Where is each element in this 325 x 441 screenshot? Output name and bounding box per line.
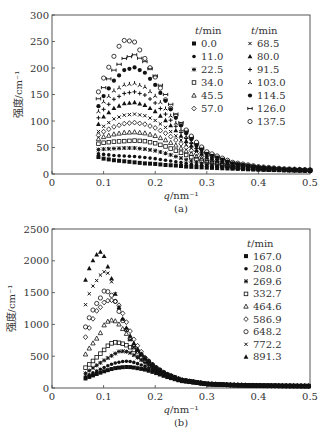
data-point-45.5: [107, 133, 111, 137]
data-point-167.0: [102, 369, 106, 373]
chart-panel-b: 00.10.20.30.40.505001000150020002500q/nm…: [0, 220, 325, 441]
data-point-45.5: [132, 130, 136, 134]
data-point-11.0: [179, 161, 183, 165]
data-point-648.2: [117, 309, 121, 313]
data-point-91.5: [153, 101, 157, 105]
legend-label: 332.7: [253, 288, 282, 299]
data-point-22.5: [96, 148, 100, 152]
data-point-45.5: [138, 130, 142, 134]
data-point-80.0: [158, 113, 163, 117]
data-point-167.0: [106, 368, 110, 372]
data-point-68.5: [102, 125, 105, 128]
data-point-891.3: [98, 249, 103, 253]
data-point-586.9: [83, 335, 87, 340]
data-point-22.5: [112, 147, 116, 151]
data-point-91.5: [158, 107, 162, 111]
data-point-45.5: [117, 131, 121, 135]
data-point-57.0: [132, 120, 136, 125]
data-point-772.2: [106, 272, 109, 275]
data-point-126.0: [117, 63, 121, 66]
data-point-208.0: [84, 375, 88, 379]
legend-item: 167.0: [244, 251, 282, 262]
data-point-114.5: [117, 73, 121, 77]
data-point-103.0: [143, 85, 147, 89]
data-point-91.5: [169, 118, 173, 122]
y-tick-label: 500: [30, 351, 49, 362]
data-point-137.5: [143, 56, 147, 60]
data-point-34.0: [174, 149, 178, 153]
data-point-464.6: [83, 352, 87, 356]
data-point-34.0: [148, 140, 152, 144]
legend-item: 208.0: [244, 263, 281, 274]
data-point-126.0: [107, 77, 111, 80]
data-point-114.5: [107, 86, 111, 90]
legend-label: 0.0: [201, 38, 217, 49]
data-point-57.0: [101, 129, 105, 134]
data-point-80.0: [117, 103, 122, 107]
data-point-57.0: [127, 121, 131, 126]
legend-item: 57.0: [192, 103, 223, 114]
data-point-464.6: [94, 336, 98, 340]
data-point-137.5: [102, 76, 106, 80]
legend-title: t/min: [195, 25, 222, 36]
data-point-11.0: [107, 153, 111, 157]
data-point-891.3: [113, 291, 118, 295]
data-point-0.0: [122, 159, 126, 163]
data-point-103.0: [102, 100, 106, 104]
data-point-208.0: [132, 361, 136, 365]
data-point-68.5: [159, 122, 162, 125]
legend-label: 80.0: [257, 51, 279, 62]
data-point-103.0: [107, 94, 111, 98]
data-point-57.0: [117, 123, 121, 128]
data-point-legend-91.5: [248, 68, 252, 72]
data-point-34.0: [143, 139, 147, 143]
data-point-68.5: [128, 113, 131, 116]
data-point-103.0: [138, 83, 142, 87]
x-tick-label: 0.3: [199, 391, 215, 402]
data-point-114.5: [96, 104, 100, 108]
data-point-208.0: [102, 366, 106, 370]
data-point-137.5: [127, 39, 131, 43]
data-point-208.0: [106, 364, 110, 368]
data-point-legend-80.0: [248, 54, 253, 58]
data-point-137.5: [138, 48, 142, 52]
chart-panel-a: 00.10.20.30.40.5050100150200250300q/nm⁻¹…: [0, 0, 325, 220]
legend-item: 11.0: [192, 51, 223, 62]
data-point-legend-891.3: [244, 354, 249, 358]
data-point-22.5: [184, 158, 188, 162]
data-point-137.5: [96, 90, 100, 94]
legend-title: t/min: [247, 238, 274, 249]
data-point-34.0: [122, 139, 126, 143]
data-point-91.5: [117, 94, 121, 98]
data-point-103.0: [96, 109, 100, 113]
data-point-891.3: [131, 341, 136, 345]
data-point-legend-103.0: [248, 80, 252, 84]
data-point-332.7: [99, 352, 103, 356]
data-point-80.0: [142, 103, 147, 107]
legend-item: 103.0: [248, 77, 286, 88]
data-point-332.7: [110, 342, 114, 346]
data-point-34.0: [153, 141, 157, 145]
data-point-45.5: [174, 143, 178, 147]
data-point-91.5: [122, 91, 126, 95]
data-point-34.0: [107, 140, 111, 144]
legend-label: 22.5: [201, 64, 223, 75]
data-point-11.0: [138, 155, 142, 159]
data-point-11.0: [148, 156, 152, 160]
data-point-22.5: [138, 147, 142, 151]
data-point-45.5: [153, 133, 157, 137]
data-point-91.5: [148, 97, 152, 101]
data-point-45.5: [122, 130, 126, 134]
data-point-208.0: [99, 367, 103, 371]
data-point-legend-22.5: [192, 68, 196, 72]
legend-label: 891.3: [253, 351, 282, 362]
legend-label: 103.0: [257, 77, 286, 88]
data-point-772.2: [95, 279, 98, 282]
data-point-0.0: [153, 162, 157, 166]
data-point-34.0: [179, 151, 183, 155]
data-point-legend-68.5: [248, 42, 251, 45]
data-point-22.5: [164, 151, 168, 155]
data-point-114.5: [148, 77, 152, 81]
data-point-45.5: [168, 140, 172, 144]
data-point-34.0: [138, 139, 142, 143]
